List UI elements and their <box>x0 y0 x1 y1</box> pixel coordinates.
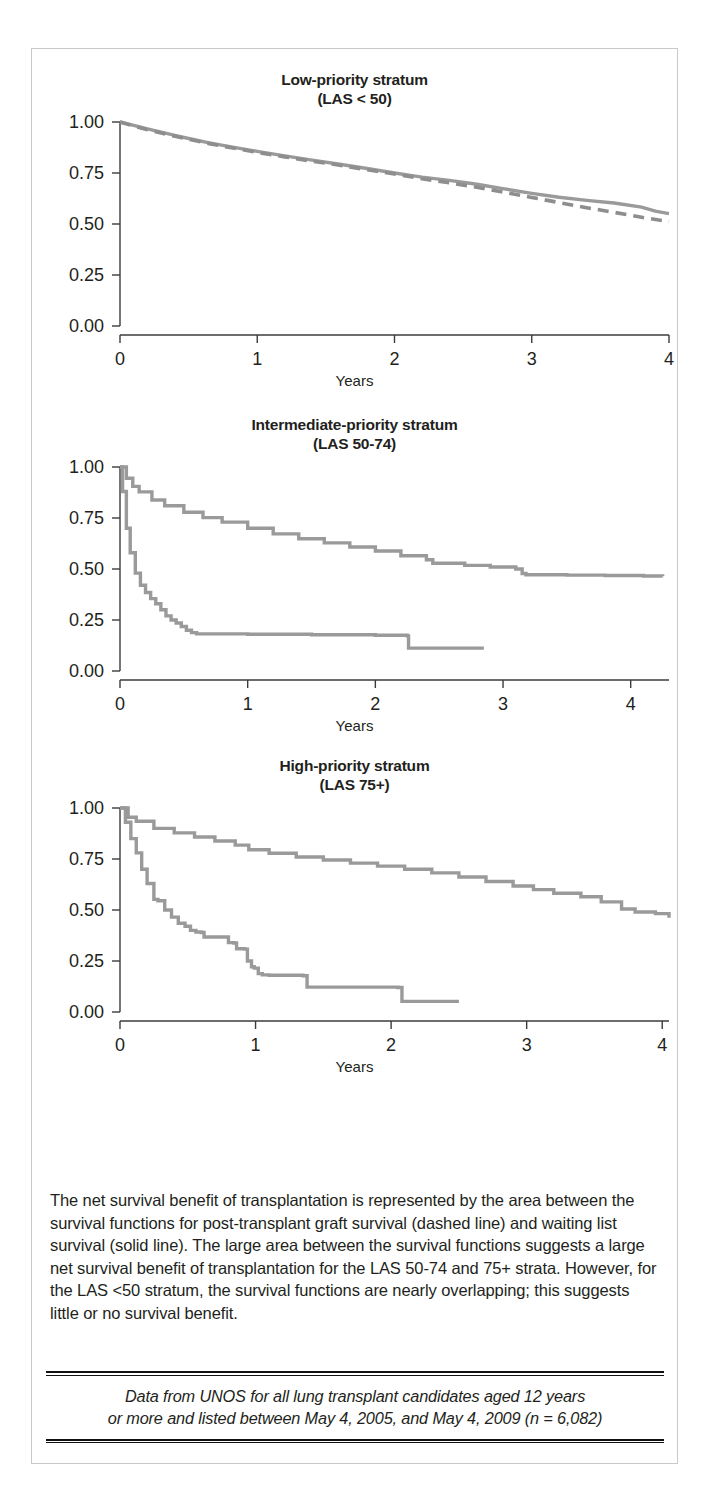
y-tick-label: 0.75 <box>69 508 104 528</box>
y-tick-label: 0.25 <box>69 951 104 971</box>
panel-title-intermediate-priority: Intermediate-priority stratum <box>32 415 677 434</box>
x-tick-label: 3 <box>498 694 508 714</box>
y-tick-label: 0.75 <box>69 163 104 183</box>
source-rule-bottom-thin <box>46 1442 664 1443</box>
panel-low-priority: Low-priority stratum (LAS < 50) 0.000.25… <box>32 70 677 389</box>
caption-text: The net survival benefit of transplantat… <box>50 1189 660 1325</box>
source-note-line-2: or more and listed between May 4, 2005, … <box>108 1409 603 1427</box>
source-note-line-1: Data from UNOS for all lung transplant c… <box>125 1387 585 1405</box>
source-rule-bottom-thick <box>46 1439 664 1441</box>
caption-block: The net survival benefit of transplantat… <box>50 1189 660 1325</box>
panel-high-priority: High-priority stratum (LAS 75+) 0.000.25… <box>32 756 677 1075</box>
waitlist-survival-curve <box>120 122 669 214</box>
panel-intermediate-priority: Intermediate-priority stratum (LAS 50-74… <box>32 415 677 734</box>
survival-chart-intermediate-priority: 0.000.250.500.751.0001234 <box>32 453 677 723</box>
y-tick-label: 0.00 <box>69 316 104 336</box>
y-tick-label: 1.00 <box>69 112 104 132</box>
x-tick-label: 3 <box>527 349 537 369</box>
y-tick-label: 1.00 <box>69 798 104 818</box>
source-note-block: Data from UNOS for all lung transplant c… <box>46 1371 664 1443</box>
y-tick-label: 0.25 <box>69 610 104 630</box>
x-tick-label: 0 <box>115 349 125 369</box>
source-note-text: Data from UNOS for all lung transplant c… <box>46 1376 664 1439</box>
y-tick-label: 1.00 <box>69 457 104 477</box>
panel-subtitle-intermediate-priority: (LAS 50-74) <box>32 434 677 453</box>
y-tick-label: 0.50 <box>69 214 104 234</box>
x-tick-label: 2 <box>370 694 380 714</box>
plot-high-priority: 0.000.250.500.751.0001234 <box>32 794 677 1064</box>
x-tick-label: 1 <box>243 694 253 714</box>
x-tick-label: 3 <box>522 1035 532 1055</box>
panel-title-low-priority: Low-priority stratum <box>32 70 677 89</box>
figure-frame: Low-priority stratum (LAS < 50) 0.000.25… <box>31 48 678 1464</box>
survival-chart-low-priority: 0.000.250.500.751.0001234 <box>32 108 677 378</box>
panel-title-high-priority: High-priority stratum <box>32 756 677 775</box>
x-tick-label: 1 <box>251 1035 261 1055</box>
plot-low-priority: 0.000.250.500.751.0001234 <box>32 108 677 378</box>
panel-subtitle-low-priority: (LAS < 50) <box>32 89 677 108</box>
y-tick-label: 0.50 <box>69 559 104 579</box>
y-tick-label: 0.25 <box>69 265 104 285</box>
waitlist-survival-curve <box>120 808 459 1001</box>
waitlist-survival-curve <box>120 467 484 648</box>
x-tick-label: 1 <box>252 349 262 369</box>
x-tick-label: 2 <box>389 349 399 369</box>
y-tick-label: 0.00 <box>69 661 104 681</box>
x-tick-label: 4 <box>664 349 674 369</box>
x-tick-label: 4 <box>657 1035 667 1055</box>
plot-intermediate-priority: 0.000.250.500.751.0001234 <box>32 453 677 723</box>
y-tick-label: 0.00 <box>69 1002 104 1022</box>
y-tick-label: 0.50 <box>69 900 104 920</box>
x-tick-label: 0 <box>115 1035 125 1055</box>
x-tick-label: 4 <box>626 694 636 714</box>
x-tick-label: 2 <box>386 1035 396 1055</box>
waitlist-survival-curve <box>120 467 663 576</box>
panel-subtitle-high-priority: (LAS 75+) <box>32 775 677 794</box>
waitlist-survival-curve <box>120 808 669 918</box>
source-rule-top-thick <box>46 1371 664 1373</box>
x-tick-label: 0 <box>115 694 125 714</box>
survival-chart-high-priority: 0.000.250.500.751.0001234 <box>32 794 677 1064</box>
y-tick-label: 0.75 <box>69 849 104 869</box>
